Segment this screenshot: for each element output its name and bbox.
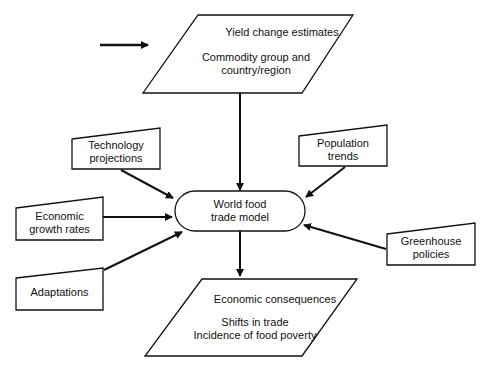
economic-growth-line2: growth rates [16, 223, 103, 236]
consequences-line2: Incidence of food poverty [180, 329, 330, 342]
population-line1: Population [299, 137, 387, 150]
greenhouse-line1: Greenhouse [387, 235, 475, 248]
model-line1: World food [175, 198, 305, 211]
technology-to-model-arrow [121, 170, 173, 198]
yield-title: Yield change estimates [212, 26, 352, 39]
consequences-title: Economic consequences [200, 293, 350, 306]
yield-line1: Commodity group and [186, 51, 326, 64]
consequences-line1: Shifts in trade [180, 316, 330, 329]
yield-line2: country/region [186, 64, 326, 77]
adaptations-to-model-arrow [104, 232, 182, 270]
adaptations-line1: Adaptations [16, 286, 103, 299]
technology-line1: Technology [72, 139, 160, 152]
greenhouse-to-model-arrow [304, 225, 386, 249]
model-line2: trade model [175, 211, 305, 224]
population-to-model-arrow [306, 167, 345, 197]
economic-growth-line1: Economic [16, 210, 103, 223]
technology-line2: projections [72, 152, 160, 165]
greenhouse-line2: policies [387, 248, 475, 261]
population-line2: trends [299, 150, 387, 163]
